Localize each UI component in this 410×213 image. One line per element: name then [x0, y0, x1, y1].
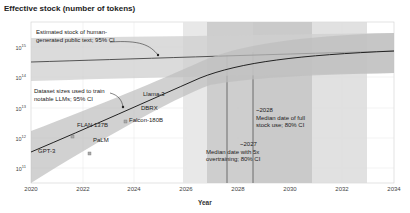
x-tick-2020: 2020: [16, 186, 46, 192]
x-tick-2026: 2026: [171, 186, 201, 192]
stock-annotation: Estimated stock of human- generated publ…: [36, 29, 115, 44]
point-label-palm: PaLM: [93, 137, 109, 143]
overtrain-line2: overtraining; 80% CI: [206, 156, 260, 164]
stock-annotation-line2: generated public text; 95% CI: [36, 37, 115, 45]
x-axis-label: Year: [198, 199, 212, 206]
x-tick-2030: 2030: [275, 186, 305, 192]
stock-annotation-line1: Estimated stock of human-: [36, 29, 115, 37]
point-label-llama: Llama-3: [143, 91, 165, 97]
x-tick-2028: 2028: [223, 186, 253, 192]
fullstock-median-label: ~2028: [256, 107, 305, 115]
overtrain-median-label: ~2027: [206, 141, 260, 149]
point-label-gpt3: GPT-3: [38, 148, 55, 154]
y-tick-1e14: 1014: [2, 73, 26, 81]
dataset-annotation-line2: notable LLMs; 95% CI: [34, 96, 105, 104]
x-tick-2032: 2032: [327, 186, 357, 192]
y-tick-1e13: 1013: [2, 104, 26, 112]
y-tick-1e11: 1011: [2, 164, 26, 172]
dataset-annotation: Dataset sizes used to train notable LLMs…: [34, 88, 105, 103]
y-tick-1e15: 1015: [2, 43, 26, 51]
fullstock-line1: Median date of full: [256, 115, 305, 123]
x-tick-2024: 2024: [119, 186, 149, 192]
overtrain-annotation: ~2027 Median date with 5x overtraining; …: [206, 141, 260, 164]
point-label-flan: FLAN 137B: [77, 122, 108, 128]
dataset-annotation-line1: Dataset sizes used to train: [34, 88, 105, 96]
point-label-falcon: Falcon-180B: [129, 117, 163, 123]
point-label-dbrx: DBRX: [141, 105, 158, 111]
overtrain-line1: Median date with 5x: [206, 149, 260, 157]
x-tick-2022: 2022: [68, 186, 98, 192]
fullstock-annotation: ~2028 Median date of full stock use; 80%…: [256, 107, 305, 130]
y-tick-1e12: 1012: [2, 134, 26, 142]
chart-figure: Effective stock (number of tokens): [0, 0, 410, 213]
fullstock-line2: stock use; 80% CI: [256, 122, 305, 130]
x-tick-2034: 2034: [379, 186, 409, 192]
